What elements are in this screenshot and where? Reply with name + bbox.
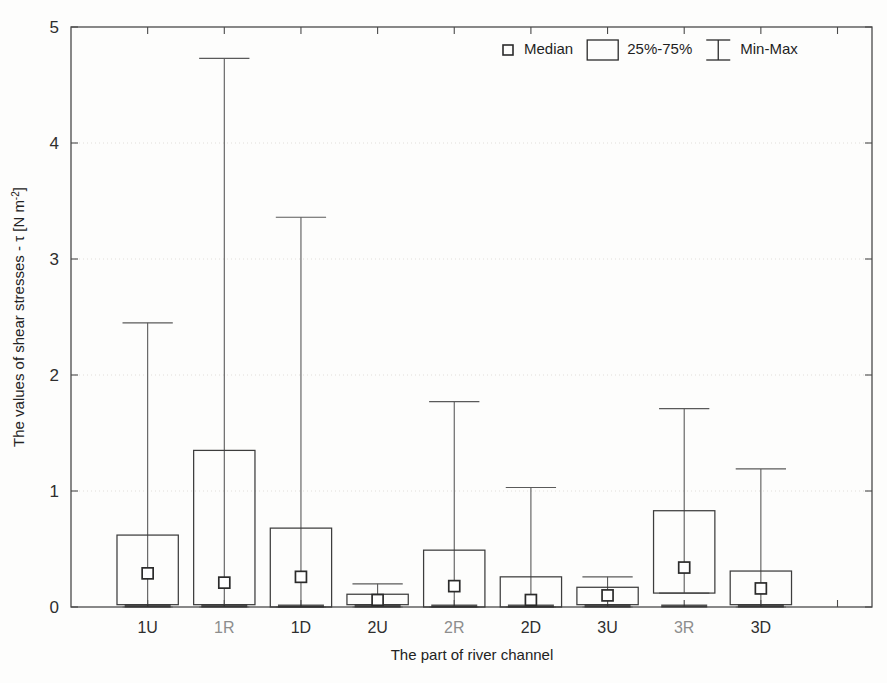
median-marker [602, 590, 613, 601]
baseline-smudge [431, 605, 477, 608]
box-plot-1D [270, 217, 331, 607]
y-axis-title: The values of shear stresses - τ [N m-2] [10, 187, 27, 447]
legend-iqr-icon [587, 40, 618, 60]
x-tick-label-1D: 1D [291, 619, 311, 636]
box-plot-3R [654, 409, 715, 593]
box-plot-1R [194, 58, 255, 607]
median-marker [295, 571, 306, 582]
x-tick-labels: 1U1R1D2U2R2D3U3R3D [137, 619, 771, 636]
y-tick-label: 0 [50, 598, 59, 617]
boxplot-figure: 012345 1U1R1D2U2R2D3U3R3D Median25%-75%M… [0, 0, 887, 683]
baseline-smudge [738, 605, 784, 608]
x-tick-label-3R: 3R [674, 619, 694, 636]
box-plot-2U [347, 584, 408, 607]
x-tick-label-1R: 1R [214, 619, 234, 636]
y-axis-title-prefix: The values of shear stresses - τ [N m [10, 200, 27, 447]
x-tick-label-3U: 3U [597, 619, 617, 636]
svg-text:The values of shear stresses -: The values of shear stresses - τ [N m-2] [10, 187, 27, 447]
baseline-smudge [125, 605, 171, 608]
baseline-smudge [585, 605, 631, 608]
legend-label-iqr: 25%-75% [627, 40, 692, 57]
x-tick-label-2U: 2U [367, 619, 387, 636]
box-plot-2R [424, 402, 485, 607]
x-tick-label-2D: 2D [521, 619, 541, 636]
median-marker [525, 595, 536, 606]
baseline-smudge [278, 605, 324, 608]
x-axis-title: The part of river channel [391, 646, 554, 663]
box-plot-3D [730, 469, 791, 607]
baseline-smudge [508, 605, 554, 608]
boxplot-svg: 012345 1U1R1D2U2R2D3U3R3D Median25%-75%M… [0, 0, 887, 683]
x-tick-label-3D: 3D [751, 619, 771, 636]
y-axis-title-suffix: ] [10, 187, 27, 191]
chart-legend: Median25%-75%Min-Max [503, 40, 798, 60]
legend-label-minmax: Min-Max [740, 40, 798, 57]
y-tick-label: 4 [50, 134, 59, 153]
baseline-smudge [201, 605, 247, 608]
plot-border [71, 27, 872, 607]
axis-ticks [71, 27, 872, 607]
scan-artifacts [125, 605, 784, 608]
median-marker [449, 581, 460, 592]
baseline-smudge [661, 605, 707, 608]
baseline-smudge [355, 605, 401, 608]
legend-label-median: Median [524, 40, 573, 57]
box-plots [117, 58, 792, 607]
box-plot-2D [500, 488, 561, 607]
y-tick-label: 2 [50, 366, 59, 385]
gridlines [71, 143, 872, 491]
y-tick-label: 3 [50, 250, 59, 269]
median-marker [219, 577, 230, 588]
plot-frame [71, 27, 872, 607]
y-tick-label: 1 [50, 482, 59, 501]
x-tick-label-1U: 1U [137, 619, 157, 636]
x-tick-label-2R: 2R [444, 619, 464, 636]
legend-median-icon [503, 45, 513, 55]
median-marker [755, 583, 766, 594]
y-tick-labels: 012345 [50, 18, 59, 617]
y-tick-label: 5 [50, 18, 59, 37]
median-marker [679, 562, 690, 573]
box-plot-1U [117, 323, 178, 607]
box-plot-3U [577, 577, 638, 607]
median-marker [372, 595, 383, 606]
median-marker [142, 568, 153, 579]
